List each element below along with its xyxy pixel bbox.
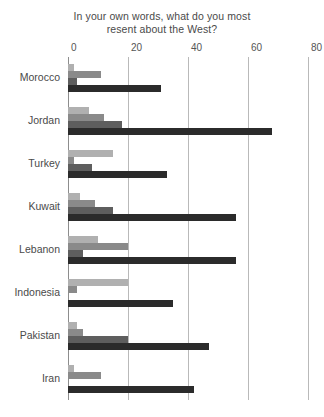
bar-group-morocco: [68, 64, 308, 92]
category-label-indonesia: Indonesia: [14, 286, 60, 298]
x-tick-label: 0: [68, 42, 77, 53]
bar-group-jordan: [68, 107, 308, 135]
category-label-iran: Iran: [42, 372, 60, 384]
bar-iran-series-1: [68, 365, 74, 372]
bar-pakistan-series-4: [68, 343, 209, 350]
bar-turkey-series-4: [68, 171, 167, 178]
bar-morocco-series-4: [68, 85, 161, 92]
bar-lebanon-series-3: [68, 250, 83, 257]
bar-pakistan-series-1: [68, 322, 77, 329]
x-tick-label: 20: [128, 42, 142, 53]
bar-jordan-series-3: [68, 121, 122, 128]
bar-lebanon-series-4: [68, 257, 236, 264]
category-label-morocco: Morocco: [20, 71, 60, 83]
x-tick-label: 60: [248, 42, 262, 53]
bar-morocco-series-1: [68, 64, 74, 71]
y-axis-category-labels: MoroccoJordanTurkeyKuwaitLebanonIndonesi…: [0, 57, 64, 400]
bar-groups: [68, 57, 308, 400]
bar-indonesia-series-1: [68, 279, 128, 286]
bar-lebanon-series-1: [68, 236, 98, 243]
category-label-pakistan: Pakistan: [20, 329, 60, 341]
bar-kuwait-series-1: [68, 193, 80, 200]
chart-title-line-1: In your own words, what do you most: [40, 10, 284, 23]
bar-iran-series-4: [68, 386, 194, 393]
chart-title: In your own words, what do you most rese…: [40, 10, 284, 36]
bar-group-iran: [68, 365, 308, 393]
bar-indonesia-series-4: [68, 300, 173, 307]
bar-turkey-series-1: [68, 150, 113, 157]
bar-morocco-series-2: [68, 71, 101, 78]
bar-turkey-series-3: [68, 164, 92, 171]
bar-morocco-series-3: [68, 78, 77, 85]
bar-kuwait-series-3: [68, 207, 113, 214]
bar-lebanon-series-2: [68, 243, 128, 250]
chart-title-line-2: resent about the West?: [40, 23, 284, 36]
bar-kuwait-series-2: [68, 200, 95, 207]
category-label-turkey: Turkey: [28, 157, 60, 169]
bar-pakistan-series-3: [68, 336, 128, 343]
bar-pakistan-series-2: [68, 329, 83, 336]
bar-jordan-series-4: [68, 128, 272, 135]
bar-indonesia-series-2: [68, 286, 77, 293]
bar-kuwait-series-4: [68, 214, 236, 221]
plot-area: [68, 57, 308, 400]
bar-group-turkey: [68, 150, 308, 178]
x-tick-label: 80: [308, 42, 322, 53]
x-tick-label: 40: [188, 42, 202, 53]
x-axis-tick-labels: 020406080: [68, 42, 320, 56]
bar-group-kuwait: [68, 193, 308, 221]
chart-container: In your own words, what do you most rese…: [0, 0, 324, 417]
bar-turkey-series-2: [68, 157, 74, 164]
bar-group-indonesia: [68, 279, 308, 307]
category-label-lebanon: Lebanon: [19, 243, 60, 255]
category-label-kuwait: Kuwait: [28, 200, 60, 212]
bar-iran-series-2: [68, 372, 101, 379]
bar-jordan-series-1: [68, 107, 89, 114]
bar-group-lebanon: [68, 236, 308, 264]
gridline-80: [308, 57, 309, 400]
category-label-jordan: Jordan: [28, 114, 60, 126]
bar-jordan-series-2: [68, 114, 104, 121]
bar-group-pakistan: [68, 322, 308, 350]
